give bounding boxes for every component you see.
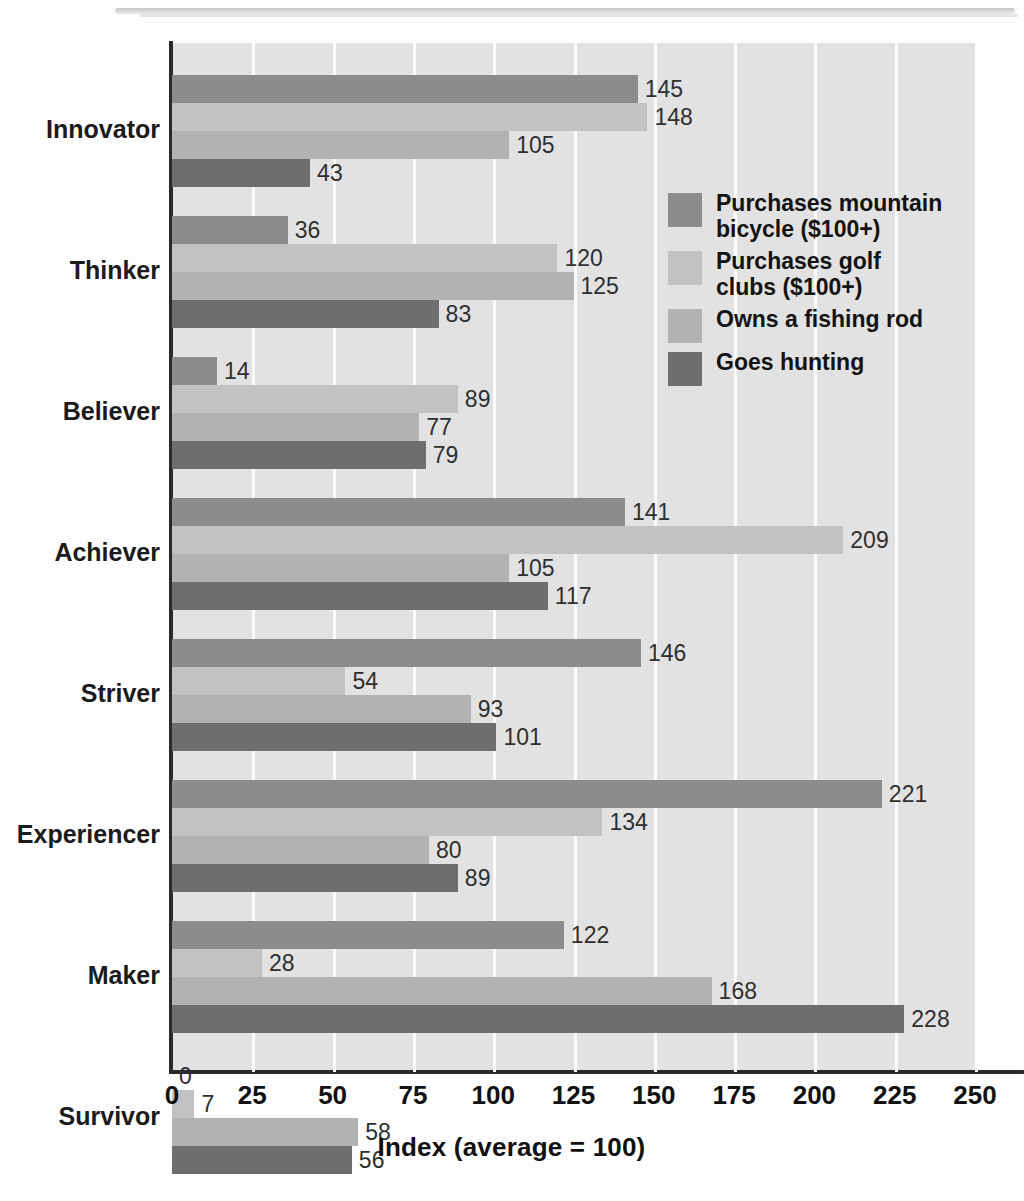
bar [172,385,458,413]
bar-value-label: 120 [564,244,602,272]
gridline [654,43,657,1072]
bar [172,272,574,300]
bar-value-label: 93 [478,695,504,723]
bar-value-label: 168 [719,977,757,1005]
bar [172,582,548,610]
gridline [574,43,577,1072]
category-label: Innovator [0,115,160,144]
bar-value-label: 83 [446,300,472,328]
legend-swatch [668,309,702,343]
chart-legend: Purchases mountainbicycle ($100+)Purchas… [668,190,968,392]
bar [172,667,345,695]
bar-value-label: 54 [352,667,378,695]
bar [172,526,843,554]
legend-swatch [668,251,702,285]
x-tick-label: 50 [318,1080,347,1111]
bar-value-label: 28 [269,949,295,977]
x-tick-label: 0 [165,1080,179,1111]
bar-value-label: 89 [465,385,491,413]
bar [172,780,882,808]
legend-item: Goes hunting [668,349,968,386]
bar [172,216,288,244]
bar-value-label: 14 [224,357,250,385]
bar-value-label: 7 [201,1090,214,1118]
bar-value-label: 146 [648,639,686,667]
bar [172,977,712,1005]
category-label: Maker [0,961,160,990]
bar-value-label: 36 [295,216,321,244]
bar-value-label: 79 [433,441,459,469]
x-tick-label: 100 [471,1080,514,1111]
bar [172,554,509,582]
gridline [975,43,978,1072]
bar-value-label: 122 [571,921,609,949]
bar [172,949,262,977]
bar [172,159,310,187]
bar-value-label: 80 [436,836,462,864]
legend-label: Purchases mountainbicycle ($100+) [716,190,942,242]
x-tick-label: 150 [632,1080,675,1111]
bar [172,1005,904,1033]
bar [172,639,641,667]
bar [172,723,496,751]
bar-value-label: 148 [654,103,692,131]
x-tick-label: 225 [873,1080,916,1111]
legend-label: Goes hunting [716,349,864,375]
bar [172,413,419,441]
bar-value-label: 105 [516,554,554,582]
legend-item: Purchases golfclubs ($100+) [668,248,968,300]
bar [172,921,564,949]
bar [172,836,429,864]
category-label: Striver [0,679,160,708]
x-axis-title: Index (average = 100) [0,1132,1023,1163]
bar-value-label: 101 [503,723,541,751]
legend-swatch [668,352,702,386]
bar-value-label: 228 [911,1005,949,1033]
bar-value-label: 105 [516,131,554,159]
legend-item: Owns a fishing rod [668,306,968,343]
x-tick-label: 75 [398,1080,427,1111]
bar [172,357,217,385]
legend-label: Owns a fishing rod [716,306,923,332]
bar-value-label: 0 [179,1062,192,1090]
bar-value-label: 43 [317,159,343,187]
bar [172,808,602,836]
x-tick-label: 250 [953,1080,996,1111]
x-tick-label: 125 [552,1080,595,1111]
x-tick-label: 175 [712,1080,755,1111]
bar [172,244,557,272]
bar-value-label: 125 [581,272,619,300]
bar-value-label: 221 [889,780,927,808]
category-label: Survivor [0,1102,160,1131]
bar-value-label: 89 [465,864,491,892]
bar-value-label: 77 [426,413,452,441]
bar-value-label: 209 [850,526,888,554]
bar [172,864,458,892]
legend-item: Purchases mountainbicycle ($100+) [668,190,968,242]
category-label: Experiencer [0,820,160,849]
bar [172,300,439,328]
bar [172,441,426,469]
bar-value-label: 117 [555,582,592,610]
bar [172,103,647,131]
bar [172,498,625,526]
bar [172,131,509,159]
x-tick-label: 200 [793,1080,836,1111]
bar-value-label: 145 [645,75,683,103]
legend-swatch [668,193,702,227]
category-label: Believer [0,397,160,426]
category-label: Thinker [0,256,160,285]
bar [172,75,638,103]
bar [172,695,471,723]
bar-value-label: 134 [609,808,647,836]
legend-label: Purchases golfclubs ($100+) [716,248,881,300]
x-tick-label: 25 [238,1080,267,1111]
bar-value-label: 141 [632,498,670,526]
category-label: Achiever [0,538,160,567]
